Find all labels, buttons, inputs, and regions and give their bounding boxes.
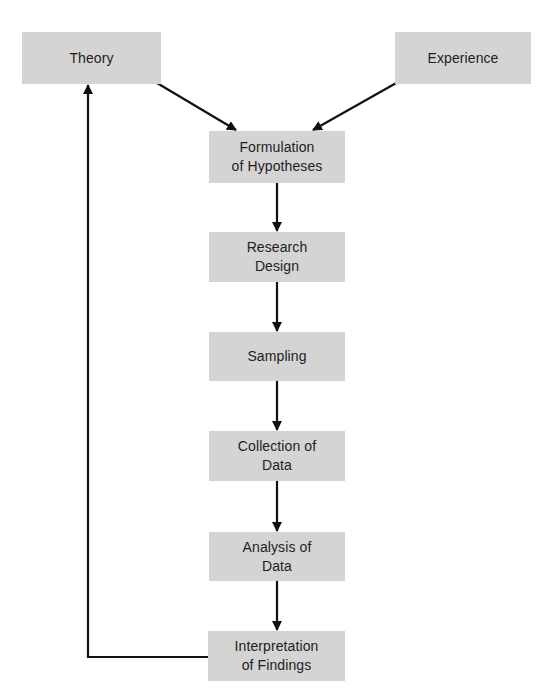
node-experience-label: Experience [427,49,498,68]
node-interpretation-of-findings: Interpretation of Findings [208,631,345,681]
node-analysis-of-data: Analysis of Data [209,532,345,581]
node-research-design-label: Research Design [247,238,308,276]
node-formulation-label: Formulation of Hypotheses [232,138,323,176]
node-collection-of-data: Collection of Data [209,431,345,481]
node-collection-label: Collection of Data [238,437,316,475]
node-interpretation-label: Interpretation of Findings [235,637,319,675]
research-process-flowchart: Theory Experience Formulation of Hypothe… [0,0,555,699]
edge-interpretation-to-theory-feedback [88,85,208,657]
node-experience: Experience [395,32,531,84]
node-sampling: Sampling [209,332,345,381]
node-theory-label: Theory [69,49,113,68]
node-sampling-label: Sampling [247,347,306,366]
node-formulation-of-hypotheses: Formulation of Hypotheses [209,131,345,183]
node-research-design: Research Design [209,232,345,282]
node-theory: Theory [22,32,161,84]
edge-experience-to-formulation [313,82,398,130]
node-analysis-label: Analysis of Data [243,538,312,576]
edge-theory-to-formulation [157,83,236,130]
